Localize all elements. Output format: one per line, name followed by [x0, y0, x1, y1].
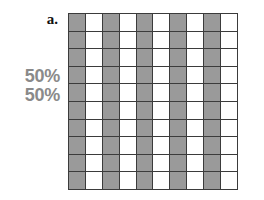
grid-cell-empty	[187, 31, 204, 49]
grid-cell-empty	[85, 31, 102, 49]
grid-cell-shaded	[204, 84, 221, 102]
grid-cell-shaded	[102, 84, 119, 102]
grid-cell-shaded	[204, 31, 221, 49]
grid-cell-empty	[221, 14, 238, 32]
grid-cell-shaded	[204, 101, 221, 119]
grid-row	[69, 154, 238, 172]
grid-row	[69, 137, 238, 155]
grid-cell-shaded	[69, 154, 86, 172]
grid-cell-empty	[85, 154, 102, 172]
grid-cell-shaded	[69, 31, 86, 49]
figure-panel: a. 50% 50%	[0, 0, 264, 200]
grid-cell-shaded	[136, 84, 153, 102]
grid-row	[69, 101, 238, 119]
grid-cell-empty	[119, 49, 136, 67]
grid-cell-shaded	[102, 31, 119, 49]
grid-cell-shaded	[136, 49, 153, 67]
grid-cell-empty	[221, 31, 238, 49]
grid-cell-empty	[221, 119, 238, 137]
grid-cell-empty	[221, 84, 238, 102]
grid-cell-empty	[153, 172, 170, 190]
grid-row	[69, 66, 238, 84]
grid-cell-empty	[119, 101, 136, 119]
grid-cell-empty	[85, 119, 102, 137]
grid-cell-shaded	[136, 66, 153, 84]
grid-cell-shaded	[136, 119, 153, 137]
grid-cell-empty	[153, 14, 170, 32]
grid-cell-empty	[221, 101, 238, 119]
grid-cell-shaded	[69, 49, 86, 67]
label-margin: a. 50% 50%	[0, 0, 64, 200]
grid-cell-shaded	[102, 101, 119, 119]
percent-label-second: 50%	[25, 86, 60, 105]
shaded-grid	[68, 13, 238, 190]
grid-cell-shaded	[170, 172, 187, 190]
grid-cell-shaded	[102, 66, 119, 84]
grid-cell-shaded	[204, 49, 221, 67]
grid-cell-empty	[187, 137, 204, 155]
grid-cell-empty	[85, 49, 102, 67]
grid-row	[69, 49, 238, 67]
grid-cell-empty	[85, 14, 102, 32]
panel-letter: a.	[47, 11, 58, 28]
grid-cell-empty	[85, 66, 102, 84]
grid-cell-empty	[187, 119, 204, 137]
percent-label-first: 50%	[25, 67, 60, 86]
grid-cell-empty	[221, 172, 238, 190]
grid-row	[69, 31, 238, 49]
grid-cell-shaded	[102, 14, 119, 32]
percent-label-group: 50% 50%	[25, 67, 60, 105]
grid-cell-shaded	[69, 119, 86, 137]
grid-cell-empty	[153, 84, 170, 102]
grid-cell-shaded	[69, 14, 86, 32]
grid-cell-shaded	[204, 137, 221, 155]
grid-cell-empty	[119, 172, 136, 190]
grid-cell-shaded	[136, 31, 153, 49]
grid-cell-shaded	[204, 172, 221, 190]
grid-cell-shaded	[136, 137, 153, 155]
grid-cell-shaded	[170, 119, 187, 137]
grid-cell-shaded	[170, 154, 187, 172]
grid-cell-shaded	[204, 154, 221, 172]
grid-cell-shaded	[170, 137, 187, 155]
grid-cell-empty	[85, 137, 102, 155]
grid-cell-shaded	[170, 84, 187, 102]
grid-cell-empty	[119, 14, 136, 32]
grid-cell-empty	[153, 154, 170, 172]
grid-cell-shaded	[102, 172, 119, 190]
grid-cell-empty	[187, 84, 204, 102]
grid-cell-empty	[153, 31, 170, 49]
grid-cell-shaded	[204, 14, 221, 32]
grid-cell-empty	[119, 31, 136, 49]
grid-cell-shaded	[69, 137, 86, 155]
grid-cell-empty	[187, 66, 204, 84]
grid-cell-empty	[153, 137, 170, 155]
grid-cell-shaded	[69, 84, 86, 102]
grid-cell-empty	[153, 66, 170, 84]
grid-cell-empty	[119, 84, 136, 102]
grid-cell-empty	[187, 154, 204, 172]
grid-cell-shaded	[102, 49, 119, 67]
grid-table	[68, 13, 238, 190]
grid-cell-empty	[119, 119, 136, 137]
grid-cell-empty	[119, 137, 136, 155]
grid-cell-shaded	[69, 101, 86, 119]
grid-cell-shaded	[102, 137, 119, 155]
grid-cell-empty	[119, 154, 136, 172]
grid-row	[69, 84, 238, 102]
grid-row	[69, 14, 238, 32]
grid-cell-shaded	[170, 66, 187, 84]
grid-cell-shaded	[170, 31, 187, 49]
grid-cell-empty	[221, 154, 238, 172]
grid-cell-empty	[153, 101, 170, 119]
grid-body	[69, 14, 238, 190]
grid-cell-empty	[153, 49, 170, 67]
grid-cell-shaded	[170, 14, 187, 32]
grid-cell-empty	[187, 172, 204, 190]
grid-cell-empty	[85, 172, 102, 190]
grid-cell-empty	[85, 101, 102, 119]
grid-cell-shaded	[102, 119, 119, 137]
grid-cell-shaded	[170, 49, 187, 67]
grid-cell-shaded	[136, 14, 153, 32]
grid-cell-empty	[187, 14, 204, 32]
